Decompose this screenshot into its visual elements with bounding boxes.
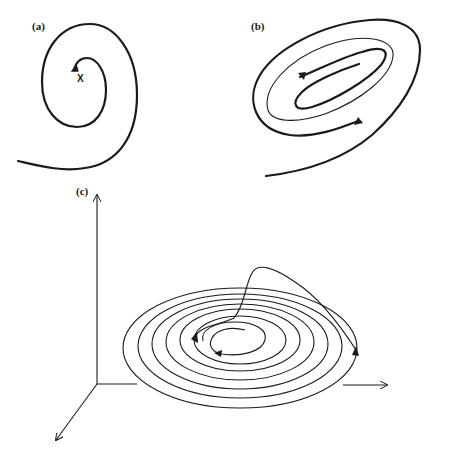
figure-canvas	[0, 0, 450, 467]
panel-b-limit-cycle	[253, 20, 420, 176]
panel-a-spiral	[18, 24, 137, 169]
arrowhead-icon	[298, 72, 306, 80]
panel-label-c: (c)	[76, 185, 88, 197]
panel-label-b: (b)	[251, 20, 264, 32]
panel-label-a: (a)	[32, 20, 45, 32]
panel-c-spiral	[123, 267, 357, 408]
arrowhead-icon	[352, 346, 359, 356]
fixed-point-marker: X	[77, 73, 84, 84]
